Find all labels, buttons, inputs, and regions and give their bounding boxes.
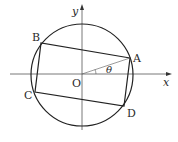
x-axis-label: x (163, 76, 170, 89)
y-axis-label: y (71, 5, 79, 18)
point-c-label: C (24, 89, 32, 102)
diagram-canvas: y x O θ A B C D (0, 0, 178, 142)
point-a-label: A (132, 52, 142, 65)
point-b-label: B (32, 31, 40, 44)
point-d-label: D (127, 107, 136, 120)
origin-label: O (72, 77, 81, 90)
angle-theta-label: θ (106, 64, 112, 75)
rectangle-abcd (35, 43, 130, 106)
angle-arc (95, 70, 96, 75)
y-axis-arrow-icon (80, 4, 84, 10)
